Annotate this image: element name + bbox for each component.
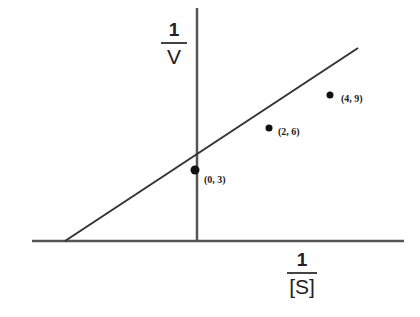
fraction-bar	[287, 272, 317, 274]
data-point-4-9	[327, 92, 334, 99]
point-label-2-6: (2, 6)	[278, 126, 300, 137]
data-point-0-3	[191, 166, 200, 175]
y-axis-label: 1 V	[161, 20, 187, 68]
y-axis-label-denominator: V	[161, 46, 187, 68]
plot-line	[65, 48, 358, 241]
plot-canvas	[0, 0, 420, 317]
x-axis-label: 1 [S]	[287, 250, 317, 298]
x-axis-label-numerator: 1	[287, 250, 317, 270]
data-point-2-6	[266, 125, 273, 132]
x-axis-label-denominator: [S]	[287, 276, 317, 298]
fraction-bar	[161, 42, 187, 44]
point-label-4-9: (4, 9)	[341, 93, 363, 104]
y-axis-label-numerator: 1	[161, 20, 187, 40]
point-label-0-3: (0, 3)	[204, 174, 226, 185]
